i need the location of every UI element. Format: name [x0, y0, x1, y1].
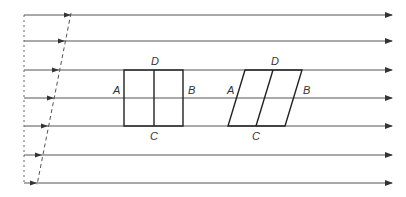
arrow-right-icon	[30, 181, 37, 186]
streamlines	[24, 15, 392, 183]
parallelogram-label-a: A	[226, 84, 234, 96]
arrow-right-icon	[47, 96, 54, 101]
square-label-b: B	[188, 84, 195, 96]
velocity-arrowheads	[30, 13, 71, 186]
parallelogram-label-b: B	[303, 84, 310, 96]
parallelogram-label-c: C	[252, 130, 260, 142]
square-label-d: D	[151, 55, 159, 67]
arrow-right-icon	[35, 153, 42, 158]
square-label-a: A	[112, 84, 120, 96]
parallelogram-label-d: D	[271, 55, 279, 67]
arrow-right-icon	[41, 124, 48, 129]
velocity-profile-dashed-line	[37, 13, 71, 185]
arrow-right-icon	[58, 39, 65, 44]
shear-flow-diagram: D C A B D C A B	[0, 0, 406, 197]
arrow-right-icon	[52, 68, 59, 73]
square-label-c: C	[150, 130, 158, 142]
